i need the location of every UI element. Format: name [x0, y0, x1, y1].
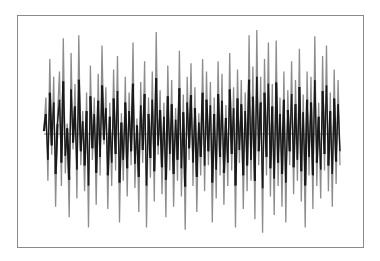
signal-core-segment: [197, 123, 199, 177]
signal-core-segment: [63, 81, 65, 155]
signal-core-segment: [236, 99, 238, 186]
signal-core-segment: [338, 104, 340, 151]
signal-core-segment: [90, 96, 92, 148]
signal-core-segment: [56, 124, 58, 174]
signal-core-segment: [179, 88, 181, 168]
signal-core-segment: [120, 123, 122, 183]
signal-core-segment: [69, 89, 71, 179]
signal-core-segment: [230, 89, 232, 154]
noise-line-chart: [0, 0, 380, 261]
signal-core-segment: [139, 105, 141, 176]
signal-core-segment: [102, 85, 104, 139]
signal-core-segment: [127, 111, 129, 168]
signal-core-segment: [276, 83, 278, 163]
signal-core-segment: [79, 80, 81, 152]
signal-core-segment: [185, 103, 187, 187]
signal-core-segment: [166, 96, 168, 180]
signal-core-segment: [133, 84, 135, 164]
signal-core-segment: [156, 78, 158, 145]
signal-core-segment: [305, 100, 307, 186]
